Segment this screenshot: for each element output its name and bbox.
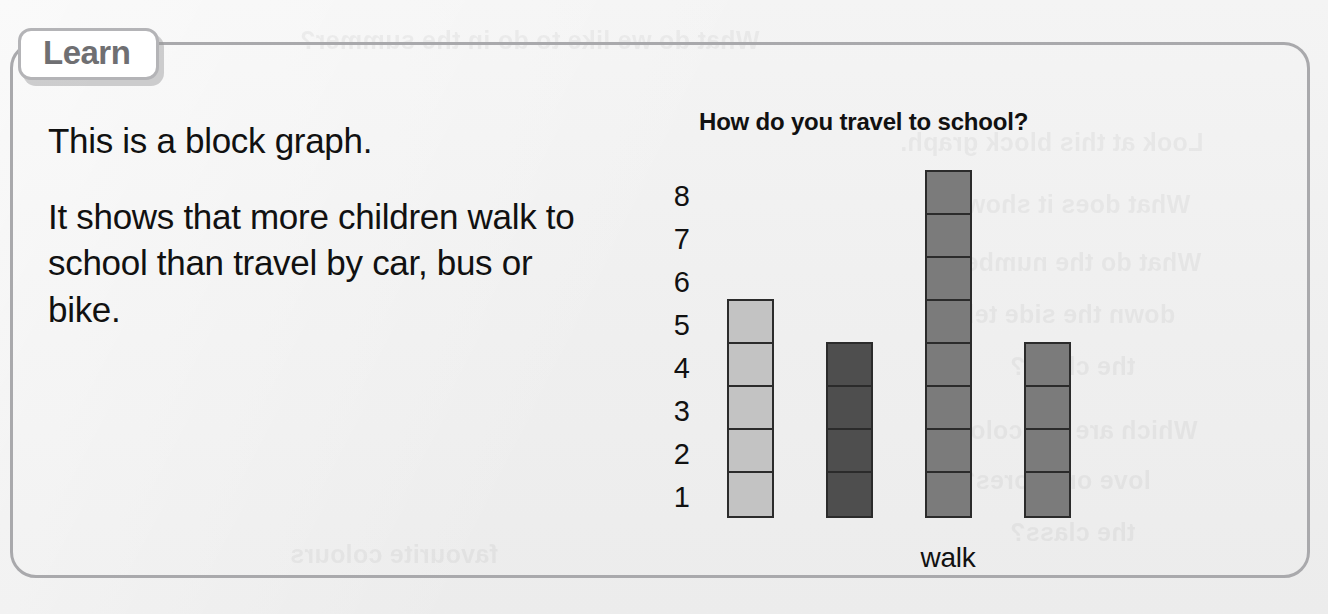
block	[927, 215, 970, 258]
block	[927, 301, 970, 344]
block	[1026, 473, 1069, 516]
block	[729, 344, 772, 387]
y-tick-6: 6	[650, 268, 690, 297]
block	[927, 344, 970, 387]
block	[828, 473, 871, 516]
block	[828, 387, 871, 430]
learn-tab-label: Learn	[43, 35, 130, 71]
block	[927, 258, 970, 301]
bar-stack-walk	[925, 170, 972, 518]
bar-stack-bike	[1024, 342, 1071, 518]
chart-title: How do you travel to school?	[699, 108, 1028, 136]
bar-group-bike[interactable]: bike	[1003, 342, 1091, 518]
bar-stack-car	[826, 342, 873, 518]
bar-stack-bus	[727, 299, 774, 518]
y-axis-tick-labels: 87654321	[650, 156, 690, 518]
prose-paragraph-1: This is a block graph.	[48, 118, 608, 164]
chart-plot-area: 87654321 buscarwalkbike	[650, 156, 1120, 566]
block	[927, 172, 970, 215]
y-tick-1: 1	[650, 483, 690, 512]
y-tick-3: 3	[650, 397, 690, 426]
block	[927, 473, 970, 516]
lesson-explanation-text: This is a block graph. It shows that mor…	[48, 118, 608, 333]
bar-series: buscarwalkbike	[706, 156, 1106, 518]
prose-paragraph-2: It shows that more children walk to scho…	[48, 194, 608, 333]
bar-group-walk[interactable]: walk	[904, 170, 992, 518]
block	[1026, 344, 1069, 387]
y-tick-2: 2	[650, 440, 690, 469]
block	[729, 430, 772, 473]
y-tick-5: 5	[650, 311, 690, 340]
block	[1026, 387, 1069, 430]
block	[828, 344, 871, 387]
block-graph: How do you travel to school? 87654321 bu…	[650, 108, 1210, 558]
block	[927, 430, 970, 473]
y-tick-4: 4	[650, 354, 690, 383]
block	[927, 387, 970, 430]
learn-tab: Learn	[18, 28, 159, 80]
block	[1026, 430, 1069, 473]
bar-label-walk: walk	[904, 542, 992, 574]
y-tick-8: 8	[650, 182, 690, 211]
block	[729, 473, 772, 516]
bar-group-car[interactable]: car	[805, 342, 893, 518]
block	[729, 387, 772, 430]
block	[828, 430, 871, 473]
bar-group-bus[interactable]: bus	[706, 299, 794, 518]
y-tick-7: 7	[650, 225, 690, 254]
block	[729, 301, 772, 344]
